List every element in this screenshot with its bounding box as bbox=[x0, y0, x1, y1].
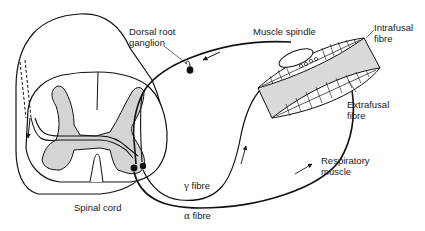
label-dorsal-root-ganglion: Dorsal root ganglion bbox=[129, 26, 175, 48]
alpha-direction-arrow bbox=[295, 164, 312, 174]
label-extrafusal-fibre: Extrafusal fibre bbox=[347, 99, 389, 121]
dorsal-root-ganglion bbox=[187, 66, 194, 74]
label-gamma-fibre: γ fibre bbox=[184, 180, 210, 191]
gamma-direction-arrow bbox=[241, 146, 246, 164]
label-intrafusal-fibre: Intrafusal fibre bbox=[374, 22, 413, 44]
label-spinal-cord: Spinal cord bbox=[74, 202, 122, 213]
reflex-arc-diagram: Dorsal root ganglion Muscle spindle Intr… bbox=[0, 0, 425, 231]
gamma-motor-neuron-body bbox=[140, 163, 146, 169]
label-muscle-spindle: Muscle spindle bbox=[253, 26, 316, 37]
label-alpha-fibre: α fibre bbox=[184, 210, 211, 221]
alpha-motor-neuron-body bbox=[131, 165, 138, 172]
label-respiratory-muscle: Respiratory muscle bbox=[321, 155, 370, 177]
